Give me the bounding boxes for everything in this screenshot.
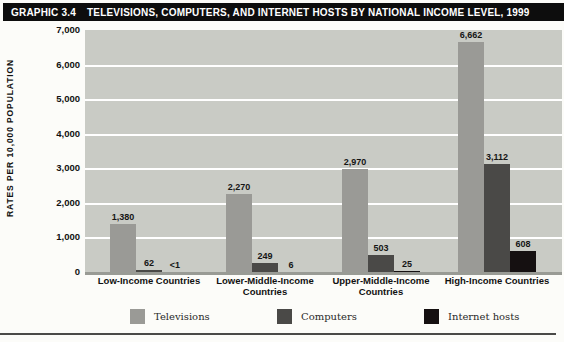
bar-slot-televisions: 2,270	[226, 30, 252, 272]
graphic-number: GRAPHIC 3.4	[11, 7, 76, 18]
y-tick-label: 7,000	[28, 24, 80, 36]
bar-computers	[368, 255, 394, 272]
bar-value-label: 6	[288, 260, 293, 270]
bar-value-label: 25	[402, 259, 412, 269]
legend-swatch-televisions	[130, 309, 145, 324]
x-category-label: Low-Income Countries	[83, 276, 215, 287]
y-tick-label: 1,000	[28, 231, 80, 243]
bar-computers	[252, 263, 278, 272]
legend-swatch-computers	[277, 309, 292, 324]
bottom-rule	[0, 333, 556, 335]
bar-group: 6,6623,112608	[458, 30, 536, 272]
bar-value-label: 2,270	[228, 182, 251, 192]
bar-slot-internet-hosts: 608	[510, 30, 536, 272]
y-tick-label: 4,000	[28, 128, 80, 140]
bar-group: 2,2702496	[226, 30, 304, 272]
plot-area: 1,38062<12,27024962,970503256,6623,11260…	[85, 30, 562, 272]
bar-value-label: 1,380	[112, 212, 135, 222]
bar-slot-televisions: 6,662	[458, 30, 484, 272]
bar-value-label: 62	[144, 258, 154, 268]
bar-slot-internet-hosts: 25	[394, 30, 420, 272]
legend-label: Computers	[301, 311, 357, 322]
y-tick-label: 3,000	[28, 162, 80, 174]
bar-value-label: 503	[373, 243, 388, 253]
legend-label: Televisions	[154, 311, 210, 322]
bar-slot-computers: 3,112	[484, 30, 510, 272]
bar-slot-internet-hosts: 6	[278, 30, 304, 272]
y-tick-label: 6,000	[28, 59, 80, 71]
bar-televisions	[342, 169, 368, 272]
bar-value-label: <1	[170, 260, 180, 270]
bar-slot-computers: 503	[368, 30, 394, 272]
bar-computers	[484, 164, 510, 272]
legend-swatch-internet-hosts	[424, 309, 439, 324]
y-axis-title: RATES PER 10,000 POPULATION	[5, 30, 18, 245]
bar-value-label: 6,662	[460, 30, 483, 40]
bar-internet-hosts	[510, 251, 536, 272]
bar-value-label: 608	[515, 239, 530, 249]
bar-value-label: 2,970	[344, 157, 367, 167]
bar-group: 2,97050325	[342, 30, 420, 272]
bar-slot-televisions: 1,380	[110, 30, 136, 272]
legend-item-computers: Computers	[277, 308, 357, 324]
bar-value-label: 249	[257, 251, 272, 261]
bar-group: 1,38062<1	[110, 30, 188, 272]
bar-slot-computers: 62	[136, 30, 162, 272]
legend-label: Internet hosts	[448, 311, 519, 322]
bar-slot-internet-hosts: <1	[162, 30, 188, 272]
legend-item-televisions: Televisions	[130, 308, 210, 324]
y-tick-label: 2,000	[28, 197, 80, 209]
bar-value-label: 3,112	[486, 152, 508, 162]
bar-televisions	[110, 224, 136, 272]
x-category-label: High-Income Countries	[431, 276, 563, 287]
graphic-title: TELEVISIONS, COMPUTERS, AND INTERNET HOS…	[87, 7, 530, 18]
graphic-container: GRAPHIC 3.4 TELEVISIONS, COMPUTERS, AND …	[0, 0, 564, 342]
bar-slot-computers: 249	[252, 30, 278, 272]
y-tick-label: 0	[28, 266, 80, 278]
x-category-label: Upper-Middle-Income Countries	[315, 276, 447, 298]
legend-item-internet-hosts: Internet hosts	[424, 308, 519, 324]
bar-televisions	[458, 42, 484, 272]
bar-slot-televisions: 2,970	[342, 30, 368, 272]
graphic-title-bar: GRAPHIC 3.4 TELEVISIONS, COMPUTERS, AND …	[3, 3, 564, 21]
y-tick-label: 5,000	[28, 93, 80, 105]
bar-televisions	[226, 194, 252, 272]
x-category-label: Lower-Middle-Income Countries	[199, 276, 331, 298]
